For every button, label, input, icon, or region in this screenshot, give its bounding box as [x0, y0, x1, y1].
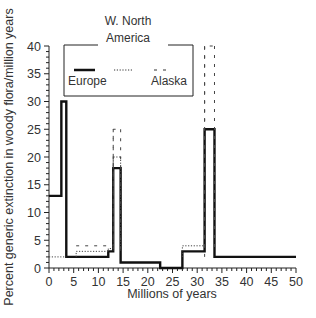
- y-tick-label: 15: [27, 178, 41, 192]
- legend-alaska-label: Alaska: [151, 74, 187, 88]
- y-tick-label: 40: [27, 40, 41, 54]
- legend: W. North America Europe Alaska: [64, 14, 193, 96]
- legend-title-line1: W. North: [105, 14, 152, 28]
- x-tick-label: 50: [289, 275, 303, 289]
- chart: 0510152025303540 05101520253035404550 W.…: [0, 0, 316, 318]
- x-tick-label: 35: [215, 275, 229, 289]
- y-tick-label: 10: [27, 206, 41, 220]
- series-europe: [49, 102, 296, 269]
- x-tick-label: 45: [264, 275, 278, 289]
- legend-title-line2: America: [106, 31, 150, 45]
- y-tick-label: 25: [27, 123, 41, 137]
- x-ticks: 05101520253035404550: [46, 268, 303, 289]
- y-ticks: 0510152025303540: [27, 40, 49, 276]
- x-tick-label: 10: [91, 275, 105, 289]
- x-tick-label: 5: [70, 275, 77, 289]
- y-tick-label: 5: [34, 234, 41, 248]
- series-w-north-america: [49, 157, 205, 257]
- x-tick-label: 40: [240, 275, 254, 289]
- x-tick-label: 0: [46, 275, 53, 289]
- y-tick-label: 0: [34, 262, 41, 276]
- y-tick-label: 20: [27, 151, 41, 165]
- y-axis-label: Percent generic extinction in woody flor…: [2, 8, 16, 305]
- x-axis-label: Millions of years: [127, 287, 217, 301]
- y-tick-label: 35: [27, 67, 41, 81]
- y-tick-label: 30: [27, 95, 41, 109]
- legend-europe-label: Europe: [68, 74, 107, 88]
